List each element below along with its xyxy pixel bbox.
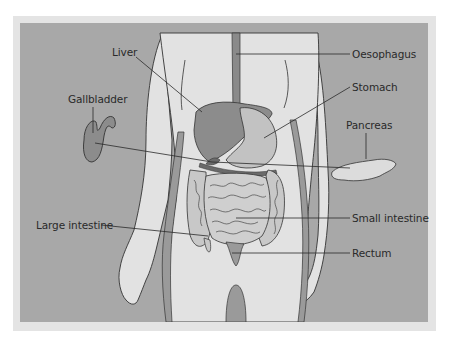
label-oesophagus: Oesophagus <box>352 48 416 60</box>
gallbladder <box>83 116 115 162</box>
label-gallbladder: Gallbladder <box>68 93 127 105</box>
label-large-intestine: Large intestine <box>36 219 113 231</box>
label-pancreas: Pancreas <box>346 119 392 131</box>
label-stomach: Stomach <box>352 81 398 93</box>
label-liver: Liver <box>112 46 137 58</box>
oesophagus <box>232 33 240 112</box>
label-rectum: Rectum <box>352 247 391 259</box>
pancreas <box>332 159 396 181</box>
label-small-intestine: Small intestine <box>352 212 429 224</box>
